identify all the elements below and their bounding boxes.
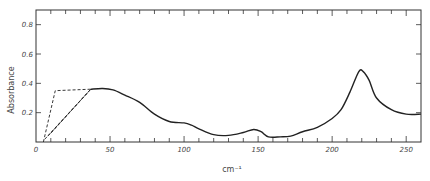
x-tick-label: 50	[106, 146, 115, 154]
x-tick-label: 0	[34, 146, 39, 154]
x-tick-label: 100	[177, 146, 191, 154]
x-tick-label: 200	[325, 146, 339, 154]
y-tick-label: 0.2	[22, 109, 34, 117]
y-tick-label: 0.8	[22, 21, 34, 29]
y-axis-title: Absorbance	[7, 66, 16, 113]
absorbance-chart: 050100150200250 0.20.40.60.8 cm⁻¹ Absorb…	[0, 0, 430, 181]
x-tick-labels: 050100150200250	[34, 146, 414, 154]
x-axis-title: cm⁻¹	[222, 165, 242, 174]
y-tick-label: 0.6	[22, 51, 34, 59]
absorbance-curve	[91, 70, 421, 138]
data-series	[43, 70, 421, 142]
x-tick-label: 250	[400, 146, 414, 154]
y-tick-labels: 0.20.40.60.8	[22, 21, 34, 117]
axis-ticks	[36, 10, 421, 142]
plot-frame	[36, 10, 421, 142]
x-tick-label: 150	[251, 146, 265, 154]
y-tick-label: 0.4	[22, 80, 33, 88]
